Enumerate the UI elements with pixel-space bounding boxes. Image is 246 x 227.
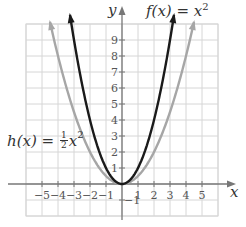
y-tick-label: 8 [111,50,118,63]
y-axis-arrow-icon [119,6,126,15]
f-label-text: f(x) = x [146,2,202,20]
x-tick-label: −4 [50,189,66,202]
x-tick-label: 2 [151,189,158,202]
y-tick-label: 2 [111,146,118,159]
y-tick-label: 3 [111,130,118,143]
x-tick-label: −5 [34,189,50,202]
y-tick-label: −1 [124,194,140,207]
y-tick-label: 4 [111,114,118,127]
x-tick-label: 5 [199,189,206,202]
x-tick-label: −1 [98,189,114,202]
f-curve-arrow-icon [68,13,75,23]
y-tick-label: 7 [111,66,118,79]
h-label-variable: x [69,132,77,150]
h-curve-arrow-icon [48,20,55,31]
parabola-chart: −5−4−3−2−112345−1123456789 [0,0,246,227]
h-label-text: h(x) = [7,132,59,150]
h-curve-arrow-icon [189,20,196,31]
x-tick-label: −2 [82,189,98,202]
y-tick-label: 6 [111,82,118,95]
f-function-label: f(x) = x2 [146,1,209,20]
fraction-denominator: 2 [61,141,67,150]
x-tick-label: 4 [183,189,190,202]
h-label-exponent: 2 [77,129,83,140]
x-tick-label: 3 [167,189,174,202]
y-axis-label: y [108,1,116,19]
h-label-fraction: 1 2 [60,131,68,150]
f-label-exponent: 2 [202,1,208,12]
y-tick-label: 5 [111,98,118,111]
h-function-label: h(x) = 1 2 x2 [7,131,84,150]
x-axis-label: x [230,183,238,201]
x-tick-label: −3 [66,189,82,202]
y-tick-label: 1 [111,162,118,175]
y-tick-label: 9 [111,34,118,47]
